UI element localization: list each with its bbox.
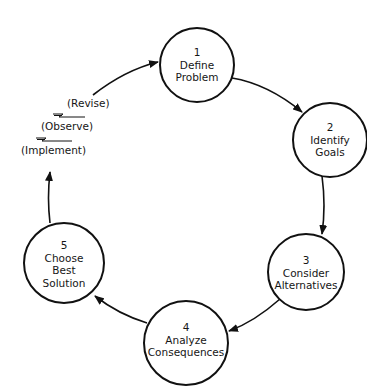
edge-revise-to-1-arrow [93, 62, 158, 95]
node-4-text-line2: Consequences [148, 346, 224, 359]
edge-1-to-2-arrow [232, 78, 302, 112]
revise-label: (Revise) [67, 97, 110, 109]
node-2-label: 2 Identify Goals [310, 121, 350, 159]
node-1-text-line2: Problem [176, 71, 219, 84]
node-2-text-line2: Goals [310, 146, 350, 159]
node-2-number: 2 [310, 121, 350, 134]
node-5-text-line3: Solution [43, 277, 86, 290]
node-1-label: 1 Define Problem [176, 46, 219, 84]
edge-2-to-3-arrow [322, 176, 324, 234]
node-5-number: 5 [43, 239, 86, 252]
node-3-text-line1: Consider [274, 267, 337, 280]
node-5-text-line1: Choose [43, 252, 86, 265]
node-3-label: 3 Consider Alternatives [274, 254, 337, 292]
node-4-text-line1: Analyze [148, 334, 224, 347]
node-5-label: 5 Choose Best Solution [43, 239, 86, 289]
step-transition-mark-1 [53, 114, 85, 117]
step-transition-mark-2 [36, 138, 72, 141]
node-3-text-line2: Alternatives [274, 279, 337, 292]
node-3-number: 3 [274, 254, 337, 267]
node-4-number: 4 [148, 321, 224, 334]
edge-4-to-5-arrow [95, 296, 147, 323]
node-4-label: 4 Analyze Consequences [148, 321, 224, 359]
edge-5-to-implement-arrow [49, 172, 51, 223]
node-5-text-line2: Best [43, 264, 86, 277]
node-1-number: 1 [176, 46, 219, 59]
observe-label: (Observe) [41, 120, 93, 132]
node-2-text-line1: Identify [310, 134, 350, 147]
node-1-text-line1: Define [176, 59, 219, 72]
implement-label: (Implement) [21, 144, 86, 156]
edge-3-to-4-arrow [229, 299, 280, 331]
